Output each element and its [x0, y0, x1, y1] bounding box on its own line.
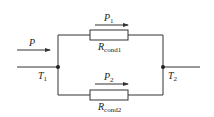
label-rcond1: Rcond1 — [97, 41, 122, 54]
resistor-cond1 — [90, 30, 128, 40]
node-t1 — [56, 65, 60, 69]
node-t2 — [161, 65, 165, 69]
resistor-cond2 — [90, 90, 128, 100]
label-rcond2: Rcond2 — [97, 101, 122, 114]
label-p: P — [28, 37, 35, 48]
label-p1: P1 — [103, 12, 114, 25]
label-t1: T1 — [38, 70, 48, 83]
thermal-circuit-diagram: P T1 T2 P1 Rcond1 P2 Rcond2 — [0, 0, 214, 117]
label-p2: P2 — [103, 71, 114, 84]
label-t2: T2 — [168, 70, 178, 83]
